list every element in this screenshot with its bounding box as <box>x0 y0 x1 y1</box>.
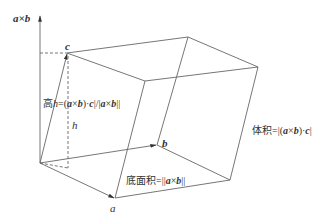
edge-cb-cab <box>188 37 258 67</box>
volume-prefix: 体积=|( <box>252 125 283 136</box>
h-label: h <box>72 120 78 131</box>
edge-ca-cab <box>145 67 258 81</box>
edge-c-cb <box>67 37 188 53</box>
height-eq: =( <box>58 98 67 109</box>
axb-label: a×b <box>13 13 30 24</box>
a-vector <box>40 163 114 198</box>
edge-c-ca <box>67 53 145 81</box>
base-suffix: || <box>181 175 185 186</box>
parallelepiped-diagram: a×b c b a h 高h=(a×b)·c|/|a×b|| 底面积=||a×b… <box>0 0 330 222</box>
b-label: b <box>162 138 168 149</box>
height-prefix: 高 <box>43 98 53 109</box>
a-label: a <box>110 203 116 214</box>
volume-formula: 体积=|(a×b)·c| <box>252 126 312 136</box>
volume-suffix: | <box>310 125 312 136</box>
b-vector <box>40 145 156 163</box>
base-prefix: 底面积=|| <box>126 175 166 186</box>
c-label: c <box>65 41 70 52</box>
diagram-canvas <box>0 0 330 222</box>
height-formula: 高h=(a×b)·c|/|a×b|| <box>43 99 120 109</box>
edge-ab-cab <box>230 67 258 180</box>
base-area-formula: 底面积=||a×b|| <box>126 176 185 186</box>
edge-b-cb <box>157 37 188 145</box>
dashed-foot <box>40 163 68 168</box>
